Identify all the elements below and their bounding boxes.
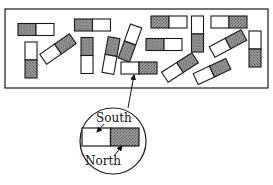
bar-magnet (209, 30, 246, 57)
bar-magnet (25, 42, 37, 78)
magnet-group (18, 16, 261, 85)
bar-magnet (192, 16, 204, 52)
magnify-pointer-arrow (128, 75, 134, 108)
bar-magnet (81, 38, 93, 74)
inset-bar-magnet (82, 128, 139, 146)
bar-magnet (75, 19, 111, 31)
bar-magnet (193, 58, 231, 84)
north-pole-label: North (85, 154, 121, 168)
north-pole (111, 128, 140, 146)
bar-magnet (18, 24, 54, 36)
magnified-inset: South North (80, 108, 146, 174)
bar-magnet (40, 34, 76, 64)
bar-magnet (211, 16, 247, 28)
bar-magnet (102, 37, 120, 75)
south-pole (82, 128, 111, 146)
magnets-diagram: South North (0, 0, 273, 185)
bar-magnet (118, 24, 142, 62)
bar-magnet (146, 39, 182, 51)
bar-magnet (249, 31, 261, 67)
bar-magnet (151, 16, 187, 28)
bar-magnet (121, 62, 157, 74)
bar-magnet (162, 53, 199, 83)
south-pole-label: South (96, 111, 132, 125)
